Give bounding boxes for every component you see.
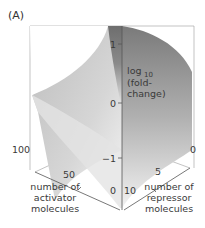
x-tick-label: 100 — [12, 144, 30, 155]
x-label-line: molecules — [31, 203, 79, 214]
x-label-line: number of — [30, 181, 80, 192]
y-tick-label: 0 — [190, 144, 196, 155]
z-label-line2: (fold- — [127, 77, 152, 88]
z-label-log: log — [127, 65, 141, 76]
x-axis-label: number of activator molecules — [30, 181, 80, 214]
surface-plot: (A) 1 0 −1 log 10 (fold- change) 0 50 10… — [0, 0, 205, 228]
y-label-line: molecules — [145, 203, 193, 214]
z-tick-label: 0 — [110, 98, 116, 109]
y-axis-label: number of repressor molecules — [144, 181, 194, 214]
x-label-line: activator — [34, 192, 76, 203]
y-label-line: number of — [144, 181, 194, 192]
z-label-line3: change) — [127, 88, 166, 99]
x-tick-label: 50 — [63, 169, 75, 180]
panel-label: (A) — [8, 9, 24, 22]
z-tick-label: 1 — [110, 39, 116, 50]
y-tick-label: 10 — [124, 185, 136, 196]
z-tick-label: −1 — [102, 153, 116, 164]
x-tick-label: 0 — [110, 185, 116, 196]
y-label-line: repressor — [147, 192, 192, 203]
y-tick-label: 5 — [155, 166, 161, 177]
